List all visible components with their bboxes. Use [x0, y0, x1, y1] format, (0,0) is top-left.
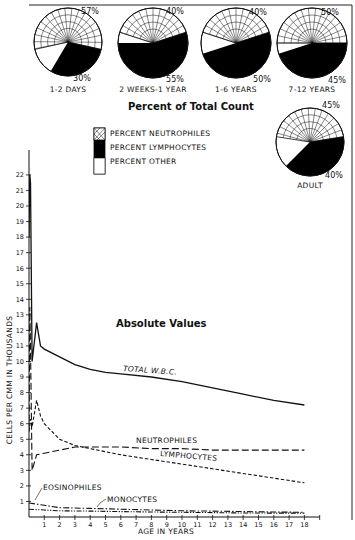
y-tick-label: 9	[20, 373, 24, 381]
pie-label-neutrophiles: 50%	[321, 8, 339, 17]
legend-swatch-lymphocytes	[94, 140, 105, 158]
annotation-monocytes: MONOCYTES	[107, 495, 157, 504]
pie-age-label: 1-2 DAYS	[50, 85, 87, 94]
figure: 57%30%1-2 DAYS40%55%2 WEEKS-1 YEAR40%50%…	[0, 0, 355, 540]
line-series-group	[29, 175, 304, 513]
pie-label-lymphocytes: 45%	[328, 76, 346, 85]
y-tick-label: 22	[16, 171, 24, 179]
x-tick-label: 13	[224, 521, 232, 529]
y-tick-label: 12	[16, 327, 24, 335]
pie-legend: PERCENT NEUTROPHILES PERCENT LYMPHOCYTES…	[94, 128, 210, 174]
pie-label-neutrophiles: 40%	[166, 7, 184, 16]
line-chart-title: Absolute Values	[116, 318, 207, 329]
pie-age-label: 7-12 YEARS	[289, 85, 336, 94]
x-tick-label: 14	[239, 521, 247, 529]
pie-1-2-days: 57%30%1-2 DAYS	[34, 7, 102, 94]
x-tick-label: 18	[300, 521, 308, 529]
pie-label-lymphocytes: 50%	[253, 75, 271, 84]
y-tick-label: 11	[16, 342, 24, 350]
y-axis: 12345678910111213141516171819202122	[16, 150, 31, 517]
annotation-eosinophiles: EOSINOPHILES	[43, 483, 102, 492]
pie-label-lymphocytes: 30%	[73, 74, 91, 83]
y-tick-label: 16	[16, 265, 24, 273]
pie-adult: 45%40%ADULT	[276, 101, 344, 190]
pie-7-12-years: 50%45%7-12 YEARS	[277, 8, 347, 94]
x-tick-label: 15	[254, 521, 262, 529]
y-tick-label: 15	[16, 280, 24, 288]
y-tick-label: 6	[20, 420, 24, 428]
pie-label-lymphocytes: 40%	[325, 171, 343, 180]
x-tick-label: 4	[88, 521, 92, 529]
pie-label-neutrophiles: 40%	[249, 8, 267, 17]
pie-2-weeks-1-year: 40%55%2 WEEKS-1 YEAR	[118, 7, 188, 94]
pie-label-neutrophiles: 57%	[81, 7, 99, 16]
y-tick-label: 21	[16, 187, 24, 195]
x-tick-label: 16	[270, 521, 278, 529]
series-neutrophiles	[29, 307, 304, 470]
legend-swatch-neutrophiles	[94, 128, 105, 140]
y-tick-label: 8	[20, 389, 24, 397]
y-tick-label: 20	[16, 202, 24, 210]
y-tick-label: 7	[20, 404, 24, 412]
x-tick-label: 12	[208, 521, 216, 529]
pie-label-neutrophiles: 45%	[322, 101, 340, 110]
pie-age-label: 1-6 YEARS	[215, 85, 257, 94]
x-tick-label: 3	[73, 521, 77, 529]
annotation-neutrophiles: NEUTROPHILES	[136, 436, 197, 445]
y-tick-label: 19	[16, 218, 24, 226]
annotation-lymphocytes: LYMPHOCYTES	[160, 449, 218, 463]
x-tick-label: 11	[193, 521, 201, 529]
pie-chart-title: Percent of Total Count	[128, 101, 254, 112]
x-tick-label: 6	[119, 521, 123, 529]
x-tick-label: 2	[58, 521, 62, 529]
y-tick-label: 3	[20, 467, 24, 475]
series-monocytes	[29, 509, 304, 513]
y-tick-label: 4	[20, 451, 24, 459]
pie-age-label: 2 WEEKS-1 YEAR	[119, 85, 186, 94]
legend-label-other: PERCENT OTHER	[110, 157, 177, 166]
pie-charts-group: 57%30%1-2 DAYS40%55%2 WEEKS-1 YEAR40%50%…	[34, 7, 347, 190]
x-tick-label: 5	[103, 521, 107, 529]
y-tick-label: 1	[20, 498, 24, 506]
y-tick-label: 2	[20, 482, 24, 490]
y-tick-label: 5	[20, 436, 24, 444]
x-tick-label: 17	[285, 521, 293, 529]
y-tick-label: 17	[16, 249, 24, 257]
pie-1-6-years: 40%50%1-6 YEARS	[201, 8, 271, 94]
y-tick-label: 13	[16, 311, 24, 319]
series-eosinophiles	[29, 503, 304, 512]
y-tick-label: 14	[16, 296, 24, 304]
pie-age-label: ADULT	[297, 181, 323, 190]
pie-label-lymphocytes: 55%	[166, 75, 184, 84]
x-tick-label: 1	[42, 521, 46, 529]
y-axis-label: CELLS PER CMM IN THOUSANDS	[5, 316, 14, 445]
y-tick-label: 10	[16, 358, 24, 366]
legend-label-neutrophiles: PERCENT NEUTROPHILES	[110, 129, 210, 138]
legend-label-lymphocytes: PERCENT LYMPHOCYTES	[110, 143, 206, 152]
y-tick-label: 18	[16, 233, 24, 241]
x-axis-label: AGE IN YEARS	[138, 527, 194, 536]
legend-swatch-other	[94, 158, 105, 174]
